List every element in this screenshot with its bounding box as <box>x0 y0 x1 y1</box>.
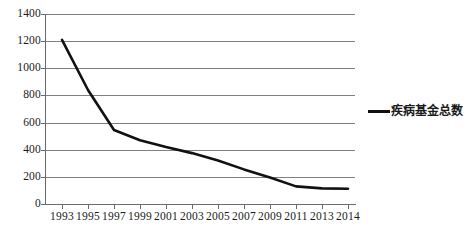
y-tick-label-1400: 1400 <box>0 8 41 20</box>
y-tick-label-400: 400 <box>0 144 41 156</box>
x-tick-label-1999: 1999 <box>127 210 153 223</box>
x-tick-2013 <box>322 204 323 209</box>
legend-swatch-disease-funds <box>368 110 390 113</box>
y-tick-label-1200: 1200 <box>0 35 41 47</box>
gridline-1000 <box>45 68 355 69</box>
y-tick-label-600: 600 <box>0 117 41 129</box>
x-tick-label-2013: 2013 <box>309 210 335 223</box>
y-axis-line <box>45 14 46 205</box>
line-chart: 1400120010008006004002000 19931995199719… <box>0 0 476 235</box>
y-axis-labels: 1400120010008006004002000 <box>0 0 41 235</box>
y-tick-label-1000: 1000 <box>0 62 41 74</box>
y-tick-1400 <box>41 14 45 15</box>
x-tick-label-2007: 2007 <box>231 210 257 223</box>
y-tick-600 <box>41 123 45 124</box>
x-tick-label-2005: 2005 <box>205 210 231 223</box>
x-tick-label-2014: 2014 <box>335 210 361 223</box>
x-tick-label-2001: 2001 <box>153 210 179 223</box>
gridline-400 <box>45 150 355 151</box>
x-tick-label-2003: 2003 <box>179 210 205 223</box>
y-tick-label-800: 800 <box>0 89 41 101</box>
x-tick-label-1993: 1993 <box>49 210 75 223</box>
x-tick-label-1995: 1995 <box>75 210 101 223</box>
x-tick-1993 <box>62 204 63 209</box>
y-tick-200 <box>41 177 45 178</box>
x-tick-label-2011: 2011 <box>283 210 309 223</box>
x-axis-labels: 1993199519971999200120032005200720092011… <box>0 210 476 230</box>
x-tick-2007 <box>244 204 245 209</box>
x-tick-1995 <box>88 204 89 209</box>
y-tick-400 <box>41 150 45 151</box>
plot-area <box>45 14 355 204</box>
x-tick-2003 <box>192 204 193 209</box>
y-tick-1200 <box>41 41 45 42</box>
gridline-200 <box>45 177 355 178</box>
x-tick-1999 <box>140 204 141 209</box>
gridline-1200 <box>45 41 355 42</box>
x-tick-2005 <box>218 204 219 209</box>
x-tick-2001 <box>166 204 167 209</box>
x-tick-label-1997: 1997 <box>101 210 127 223</box>
gridline-600 <box>45 123 355 124</box>
chart-legend: 疾病基金总数 <box>368 104 463 118</box>
y-tick-label-0: 0 <box>0 198 41 210</box>
x-tick-1997 <box>114 204 115 209</box>
x-axis-line <box>45 204 356 205</box>
gridline-800 <box>45 95 355 96</box>
y-tick-0 <box>41 204 45 205</box>
x-tick-2011 <box>296 204 297 209</box>
x-tick-2009 <box>270 204 271 209</box>
y-tick-800 <box>41 95 45 96</box>
y-tick-label-200: 200 <box>0 171 41 183</box>
x-tick-label-2009: 2009 <box>257 210 283 223</box>
gridline-1400 <box>45 14 355 15</box>
legend-label-disease-funds: 疾病基金总数 <box>391 104 463 118</box>
y-tick-1000 <box>41 68 45 69</box>
x-tick-2014 <box>348 204 349 209</box>
